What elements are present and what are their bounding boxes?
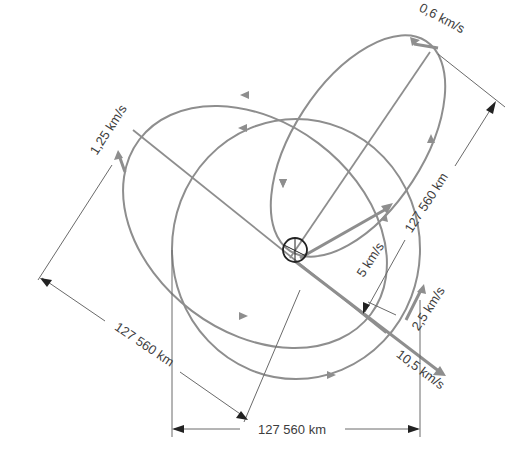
arrowhead-icon bbox=[40, 278, 52, 287]
direction-arrow-icon bbox=[239, 312, 248, 320]
dimension-label-left: 127 560 km bbox=[112, 319, 177, 369]
dimension-left: 127 560 km bbox=[38, 165, 300, 422]
narrow-ellipse-orbit bbox=[235, 6, 480, 286]
planet-symbol bbox=[283, 238, 307, 262]
arrowhead-icon bbox=[172, 425, 184, 433]
dimension-label-right: 127 560 km bbox=[401, 170, 451, 235]
velocity-label-1-25: 1,25 km/s bbox=[87, 101, 131, 157]
arrowhead-icon bbox=[486, 101, 496, 114]
velocity-label-5: 5 km/s bbox=[354, 239, 388, 280]
dimension-label-bottom: 127 560 km bbox=[258, 422, 326, 437]
arrowhead-icon bbox=[363, 302, 370, 314]
dimension-right: 127 560 km bbox=[363, 54, 505, 315]
direction-arrow-icon bbox=[240, 91, 249, 99]
velocity-label-0-6: 0,6 km/s bbox=[417, 0, 468, 36]
velocity-label-2-5: 2,5 km/s bbox=[409, 283, 449, 333]
direction-arrow-icon bbox=[279, 179, 287, 188]
arrowhead-icon bbox=[408, 425, 420, 433]
orbit-diagram: 127 560 km 127 560 km 127 560 km 0,6 km/… bbox=[0, 0, 530, 470]
dimension-bottom: 127 560 km bbox=[172, 250, 420, 437]
